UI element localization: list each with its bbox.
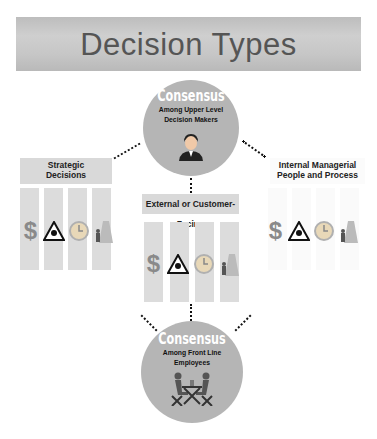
page-title: Decision Types: [16, 27, 361, 63]
right-icons: $: [263, 217, 360, 245]
bottom-circle-title: Consensus: [152, 329, 232, 348]
road-person-icon: [217, 252, 241, 276]
clock-icon: [192, 253, 216, 275]
businessman-icon: [176, 131, 206, 161]
right-box-line1: Internal Managerial: [270, 160, 365, 170]
dollar-icon: $: [263, 217, 288, 245]
hazard-icon: [167, 254, 189, 274]
arrow-bottom-to-right: [235, 315, 252, 332]
left-icons: $: [18, 217, 115, 245]
hazard-icon: [43, 221, 65, 241]
left-box-line2: Decisions: [20, 170, 112, 180]
arrow-center-to-top: [190, 178, 192, 193]
road-person-icon: [336, 219, 360, 243]
hazard-icon: [288, 221, 310, 241]
clock-icon: [67, 220, 91, 242]
arrow-bottom-to-center: [190, 304, 192, 321]
arrow-left-to-top: [114, 143, 141, 160]
road-person-icon: [91, 219, 115, 243]
bottom-circle-subtitle-2: Employees: [149, 358, 236, 368]
meeting-table-icon: [168, 370, 216, 406]
top-circle-subtitle-1: Among Upper Level: [150, 105, 232, 115]
external-customer-facing-label: External or Customer-Facing: [142, 194, 239, 214]
bottom-circle-subtitle-1: Among Front Line: [149, 348, 236, 358]
top-circle-subtitle-2: Decision Makers: [150, 115, 232, 125]
center-icons: $: [141, 250, 241, 278]
left-box-line1: Strategic: [20, 160, 112, 170]
top-circle-title: Consensus: [154, 86, 229, 105]
internal-managerial-label: Internal Managerial People and Process: [270, 158, 365, 184]
arrow-bottom-to-left: [141, 315, 158, 332]
clock-icon: [312, 220, 336, 242]
dollar-icon: $: [18, 217, 43, 245]
top-consensus-circle: Consensus Among Upper Level Decision Mak…: [143, 80, 239, 176]
bottom-consensus-circle: Consensus Among Front Line Employees: [141, 321, 243, 423]
strategic-decisions-label: Strategic Decisions: [20, 158, 112, 184]
title-banner: Decision Types: [16, 17, 361, 71]
arrow-right-to-top: [242, 140, 266, 158]
right-box-line2: People and Process: [270, 170, 365, 180]
dollar-icon: $: [141, 250, 166, 278]
